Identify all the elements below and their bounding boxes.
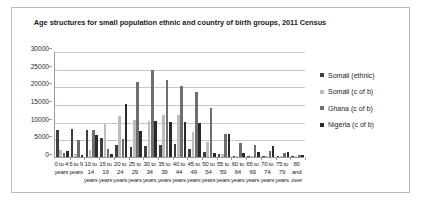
bar — [92, 130, 95, 157]
bar — [291, 156, 294, 157]
bar — [272, 146, 275, 157]
bar — [63, 153, 66, 157]
bar — [239, 143, 242, 157]
bar — [242, 153, 245, 157]
y-axis-tick-label: 10000 — [31, 115, 49, 122]
bar — [254, 145, 257, 157]
bar — [188, 149, 191, 157]
bar — [118, 116, 121, 157]
bar — [192, 132, 195, 157]
bar — [174, 144, 177, 157]
bar — [198, 123, 201, 157]
bar — [122, 139, 125, 157]
bar-group — [231, 51, 246, 157]
bar — [104, 124, 107, 157]
y-axis-tick-mark — [48, 48, 52, 49]
bar — [95, 135, 98, 157]
y-axis-tick-mark — [48, 66, 52, 67]
bar — [151, 70, 154, 157]
bar — [162, 115, 165, 157]
legend-item-label: Somali (ethnic) — [328, 72, 375, 79]
plot-area — [54, 52, 304, 158]
legend-item[interactable]: Somali (c of b) — [320, 84, 406, 101]
bar — [110, 154, 113, 157]
y-axis: 050001000015000200002500030000 — [12, 48, 52, 160]
bar-group — [99, 51, 114, 157]
bar-group — [187, 51, 202, 157]
bar — [251, 156, 254, 157]
legend-item[interactable]: Somali (ethnic) — [320, 67, 406, 84]
bar-group — [173, 51, 188, 157]
y-axis-tick-mark — [48, 83, 52, 84]
bar — [89, 150, 92, 157]
bar — [74, 154, 77, 157]
bar — [148, 121, 151, 157]
bar — [236, 156, 239, 157]
bar-group — [70, 51, 85, 157]
bar — [233, 156, 236, 157]
legend-swatch-icon — [320, 73, 324, 77]
bar — [130, 147, 133, 157]
bar-group — [261, 51, 276, 157]
y-axis-tick-label: 25000 — [31, 62, 49, 69]
bar — [81, 155, 84, 157]
bar — [283, 153, 286, 157]
bar — [247, 156, 250, 157]
bar — [228, 134, 231, 157]
bar — [221, 154, 224, 157]
bar-group — [143, 51, 158, 157]
y-axis-tick-label: 30000 — [31, 45, 49, 52]
bar — [257, 152, 260, 157]
bar — [115, 145, 118, 157]
legend-item[interactable]: Nigeria (c of b) — [320, 117, 406, 134]
y-axis-tick-label: 15000 — [31, 98, 49, 105]
bar — [177, 115, 180, 157]
bar-group — [217, 51, 232, 157]
bar — [203, 152, 206, 157]
bar — [195, 92, 198, 157]
bar — [295, 156, 298, 157]
bar — [77, 140, 80, 157]
bar — [265, 156, 268, 157]
bar — [224, 134, 227, 157]
bar — [213, 153, 216, 157]
x-axis-tick-label: 80andover — [285, 160, 308, 185]
bar — [71, 129, 74, 157]
bar-group — [290, 51, 305, 157]
bar — [218, 154, 221, 157]
bar — [59, 150, 62, 157]
plot-wrapper: 050001000015000200002500030000 Somali (e… — [12, 8, 411, 194]
bar — [301, 155, 304, 157]
chart-container: Age structures for small population ethn… — [11, 7, 410, 193]
bar — [100, 138, 103, 157]
bar — [206, 142, 209, 157]
bar — [180, 86, 183, 157]
legend-swatch-icon — [320, 106, 324, 110]
bar-group — [202, 51, 217, 157]
bar — [287, 152, 290, 157]
bar — [154, 121, 157, 157]
bar — [184, 122, 187, 157]
bar — [169, 122, 172, 157]
bar — [280, 156, 283, 157]
bar — [139, 131, 142, 157]
bar — [56, 130, 59, 157]
legend-item-label: Nigeria (c of b) — [328, 121, 374, 128]
bar — [277, 156, 280, 157]
bar-group — [129, 51, 144, 157]
bar — [144, 146, 147, 157]
y-axis-tick-label: 5000 — [34, 133, 49, 140]
legend-swatch-icon — [320, 123, 324, 127]
bar — [298, 155, 301, 157]
bar — [133, 120, 136, 157]
bar-group — [84, 51, 99, 157]
bar — [136, 82, 139, 157]
bar-group — [276, 51, 291, 157]
legend-item-label: Somali (c of b) — [328, 88, 373, 95]
legend-item[interactable]: Ghana (c of b) — [320, 100, 406, 117]
y-axis-tick-mark — [48, 101, 52, 102]
bar — [86, 130, 89, 157]
y-axis-tick-mark — [48, 136, 52, 137]
bar — [125, 104, 128, 157]
y-axis-tick-label: 20000 — [31, 80, 49, 87]
